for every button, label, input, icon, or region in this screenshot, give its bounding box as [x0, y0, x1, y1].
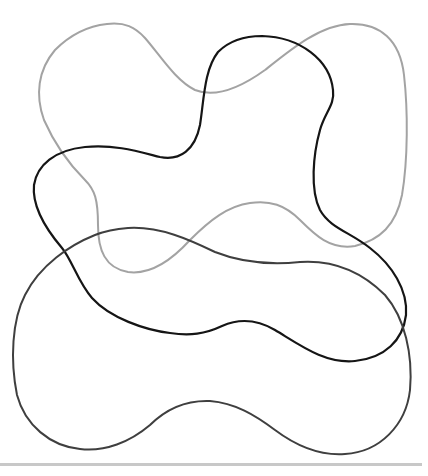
- blob-drawing: [0, 0, 428, 476]
- bottom-divider-line: [0, 463, 422, 466]
- dark-gray-blob: [13, 228, 411, 454]
- black-blob: [34, 36, 406, 361]
- drawing-canvas: [0, 0, 428, 476]
